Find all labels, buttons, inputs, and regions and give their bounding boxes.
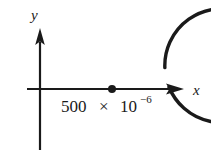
value-mantissa: 500 bbox=[61, 97, 87, 116]
coordinate-diagram: y x 500 × 10 −6 bbox=[0, 0, 211, 154]
center-point-marker bbox=[108, 85, 116, 93]
y-axis-label: y bbox=[29, 7, 38, 23]
figure-canvas: y x 500 × 10 −6 bbox=[0, 0, 211, 154]
value-operator: × bbox=[99, 97, 109, 116]
circle-outline bbox=[165, 9, 211, 123]
value-label-group: 500 × 10 −6 bbox=[61, 93, 152, 116]
value-exponent: −6 bbox=[140, 93, 152, 105]
value-base: 10 bbox=[120, 97, 137, 116]
x-axis-label: x bbox=[192, 82, 200, 98]
